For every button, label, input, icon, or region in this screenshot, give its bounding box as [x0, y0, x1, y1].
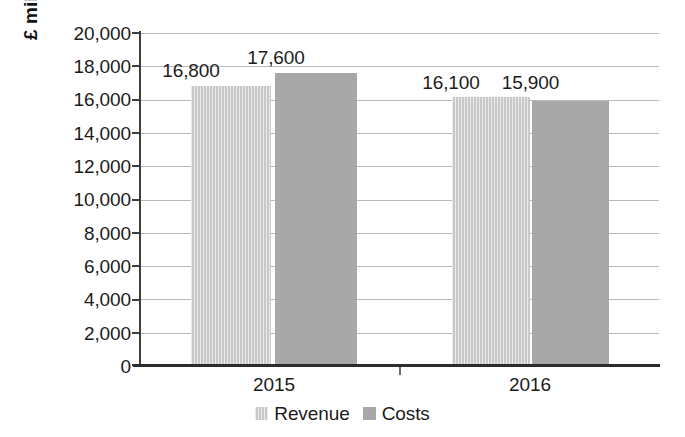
legend-swatch-revenue-icon	[255, 407, 268, 420]
plot-area	[140, 33, 659, 365]
y-tick-label: 6,000	[6, 257, 131, 276]
x-axis-tick	[399, 367, 401, 375]
y-tick-label: 14,000	[6, 124, 131, 143]
y-tick-label: 8,000	[6, 224, 131, 243]
bar-revenue-2016[interactable]	[452, 97, 530, 365]
y-tick-label: 16,000	[6, 90, 131, 109]
bar-chart: £ millions 20,000 18,000 16,000 14,000 1…	[0, 0, 685, 437]
y-tick-label: 2,000	[6, 324, 131, 343]
x-axis-category-2015: 2015	[234, 374, 314, 396]
bar-revenue-2015[interactable]	[191, 86, 271, 365]
data-label-costs-2016: 15,900	[492, 73, 569, 92]
y-axis-line	[139, 31, 141, 367]
y-tick-label: 0	[6, 357, 131, 376]
y-tick-label: 4,000	[6, 290, 131, 309]
bar-costs-2016[interactable]	[532, 101, 609, 365]
y-tick-label: 12,000	[6, 157, 131, 176]
data-label-costs-2015: 17,600	[236, 48, 316, 67]
legend-label-costs: Costs	[382, 404, 430, 423]
data-label-revenue-2015: 16,800	[151, 61, 231, 80]
legend: Revenue Costs	[0, 404, 685, 423]
data-label-revenue-2016: 16,100	[412, 73, 490, 92]
y-tick-label: 10,000	[6, 190, 131, 209]
x-axis-category-2016: 2016	[490, 374, 570, 396]
bar-costs-2015[interactable]	[275, 73, 357, 365]
y-axis-tick-labels: 20,000 18,000 16,000 14,000 12,000 10,00…	[0, 0, 131, 437]
y-tick-label: 18,000	[6, 57, 131, 76]
legend-label-revenue: Revenue	[274, 404, 349, 423]
legend-item-revenue[interactable]: Revenue	[255, 404, 349, 423]
x-axis-line	[133, 364, 660, 367]
legend-swatch-costs-icon	[363, 407, 376, 420]
legend-item-costs[interactable]: Costs	[363, 404, 430, 423]
gridline	[140, 33, 659, 34]
y-tick-label: 20,000	[6, 24, 131, 43]
